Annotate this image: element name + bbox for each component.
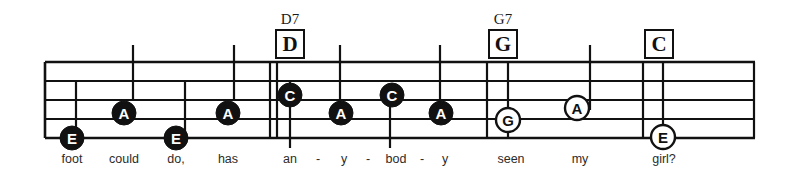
chord-g7-letter: G [495,32,511,56]
note-4-letter: A [223,105,234,122]
note-1-notehead: E [60,126,84,150]
note-8-notehead: A [429,101,453,125]
note-6-letter: A [336,105,347,122]
lyrics-group: footcoulddo,hasan-y-bod-yseenmygirl? [62,152,676,166]
lyric-my: my [572,152,589,166]
lyric-girl: girl? [652,152,676,166]
note-8-letter: A [436,105,447,122]
lyric-do: do, [167,152,184,166]
lyric-hyphen-2: - [366,152,370,166]
chord-symbols-group: D7DG7GC [276,11,673,58]
note-9-notehead: G [496,108,520,132]
note-7-notehead: C [380,83,404,107]
notation-canvas: D7DG7GC EAEACACAGAE footcoulddo,hasan-y-… [0,0,791,182]
chord-g7-superscript-label: G7 [494,11,513,27]
note-1-letter: E [67,130,77,147]
lyric-hyphen-3: - [420,152,424,166]
note-6-notehead: A [329,101,353,125]
note-9-letter: G [502,112,514,129]
note-5-notehead: C [278,83,302,107]
note-11-notehead: E [651,125,675,149]
note-7-letter: C [387,87,398,104]
lyric-bod: bod [386,152,407,166]
note-5-letter: C [285,87,296,104]
chord-d7-superscript-label: D7 [281,11,300,27]
lyric-hyphen-1: - [316,152,320,166]
lyric-seen: seen [497,152,524,166]
lyric-foot: foot [62,152,83,166]
noteheads-group: EAEACACAGAE [60,83,675,150]
lyric-y-1: y [341,152,348,166]
note-2-notehead: A [112,101,136,125]
music-sheet-excerpt: D7DG7GC EAEACACAGAE footcoulddo,hasan-y-… [0,0,791,182]
chord-d7-letter: D [282,32,297,56]
lyric-an: an [283,152,297,166]
lyric-y-2: y [442,152,449,166]
note-3-letter: E [171,130,181,147]
note-4-notehead: A [216,101,240,125]
note-10-letter: A [572,100,583,117]
note-2-letter: A [119,105,130,122]
note-10-notehead: A [565,96,589,120]
lyric-could: could [109,152,139,166]
note-11-letter: E [658,129,668,146]
lyric-has: has [218,152,238,166]
chord-c-letter: C [651,32,666,56]
note-3-notehead: E [164,126,188,150]
